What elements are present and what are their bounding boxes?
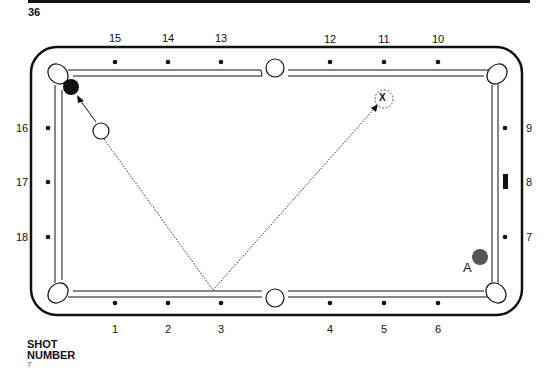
diamond-label-14: 14 [158,32,178,44]
pocket-top-side [266,59,284,77]
diamond-label-13: 13 [211,32,231,44]
ball-a [472,249,488,265]
diamond-label-12: 12 [320,33,340,45]
diamond-label-3: 3 [211,323,231,335]
diamond-label-5: 5 [374,323,394,335]
diamond-label-2: 2 [158,323,178,335]
diamond-label-17: 17 [12,176,32,188]
pocket-bottom-side [266,289,284,307]
arrowhead-object [77,95,84,103]
diamond-label-11: 11 [374,33,394,45]
pocket-bottom-right [482,279,510,307]
object-ball-path [80,100,96,122]
cue-ball [93,123,109,139]
diamond-label-1: 1 [105,323,125,335]
target-label: X [379,92,386,103]
shot-label-line2: NUMBER [27,350,75,361]
diamond-label-15: 15 [105,32,125,44]
shot-number-heading: SHOT NUMBER [27,339,75,361]
shot-paths [104,109,374,290]
pocket-bottom-left [44,279,72,307]
diamond-label-9: 9 [519,122,539,134]
pocket-top-right [483,60,511,88]
diamond-label-10: 10 [428,33,448,45]
cue-path-to-rail [104,139,213,290]
pockets [44,59,511,307]
diamond-label-18: 18 [12,231,32,243]
diamond-label-8: 8 [519,176,539,188]
rebound-path [213,109,374,290]
marker-bar [503,174,508,189]
shot-number-value: 7 [27,361,31,369]
object-ball [63,79,79,95]
diamonds [46,60,508,306]
cushions [55,70,498,297]
diamond-label-6: 6 [428,323,448,335]
table-outer-rail [31,47,522,315]
ball-a-label: A [463,260,472,275]
diamond-label-7: 7 [519,231,539,243]
diamond-label-4: 4 [320,323,340,335]
diamond-label-16: 16 [12,122,32,134]
pool-table-diagram [0,0,545,370]
